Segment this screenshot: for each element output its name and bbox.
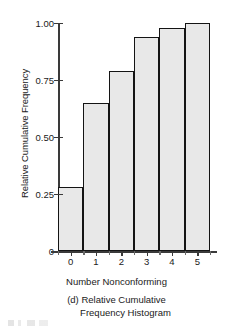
x-tick-mark-minor xyxy=(134,251,135,255)
relative-cumulative-frequency-histogram-figure: Relative Cumulative Frequency 00.250.500… xyxy=(0,0,233,330)
x-tick-label: 0 xyxy=(59,256,83,267)
y-tick-label: 0 xyxy=(20,246,54,257)
x-tick-mark-minor xyxy=(83,251,84,255)
bar xyxy=(185,23,210,251)
bar xyxy=(83,103,108,251)
x-tick-label: 1 xyxy=(84,256,108,267)
bar xyxy=(134,37,159,251)
plot-area xyxy=(58,23,210,251)
x-tick-label: 2 xyxy=(109,256,133,267)
scan-artifact xyxy=(8,320,52,326)
y-tick-label: 0.50 xyxy=(20,132,54,143)
x-axis-title: Number Nonconforming xyxy=(0,276,233,287)
x-tick-label: 5 xyxy=(185,256,209,267)
caption-line-2: Frequency Histogram xyxy=(0,306,233,319)
y-tick-label: 1.00 xyxy=(20,18,54,29)
x-tick-mark-minor xyxy=(210,251,211,255)
bar xyxy=(159,28,184,251)
x-tick-mark-minor xyxy=(109,251,110,255)
x-axis-tick-labels: 012345 xyxy=(58,256,210,270)
figure-caption: (d) Relative Cumulative Frequency Histog… xyxy=(0,293,233,319)
x-tick-mark-minor xyxy=(185,251,186,255)
bar xyxy=(109,71,134,251)
y-tick-mark xyxy=(54,194,63,195)
bar xyxy=(58,187,83,251)
y-tick-mark xyxy=(54,80,63,81)
y-tick-mark xyxy=(54,137,63,138)
y-tick-label: 0.25 xyxy=(20,189,54,200)
caption-line-1: (d) Relative Cumulative xyxy=(67,294,166,305)
x-tick-label: 4 xyxy=(160,256,184,267)
x-tick-mark-minor xyxy=(58,251,59,255)
x-tick-mark-minor xyxy=(159,251,160,255)
y-tick-mark xyxy=(54,23,63,24)
x-tick-label: 3 xyxy=(135,256,159,267)
y-tick-label: 0.75 xyxy=(20,75,54,86)
